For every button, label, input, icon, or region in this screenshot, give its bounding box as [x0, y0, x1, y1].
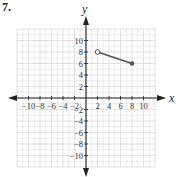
- y-tick-label: −2: [74, 105, 83, 115]
- x-tick-label: −4: [58, 101, 68, 111]
- x-tick-label: 8: [130, 101, 134, 111]
- x-tick-label: 10: [139, 101, 148, 111]
- y-tick-label: 2: [79, 82, 83, 92]
- x-tick-label: −6: [47, 101, 56, 111]
- y-tick-label: 6: [79, 59, 83, 69]
- y-tick-label: −4: [74, 116, 84, 126]
- arrow-right-icon: [157, 95, 166, 101]
- coordinate-plane: −10−8−6−4−2246810108642−2−4−6−8−10 x y: [0, 0, 184, 177]
- open-endpoint: [95, 50, 100, 55]
- closed-endpoint: [130, 61, 135, 66]
- x-axis-label: x: [168, 91, 175, 105]
- x-tick-label: 2: [95, 101, 99, 111]
- x-tick-label: 6: [118, 101, 122, 111]
- y-tick-label: −8: [74, 139, 83, 149]
- arrow-up-icon: [83, 16, 89, 25]
- arrow-down-icon: [83, 168, 89, 177]
- y-tick-label: 8: [79, 47, 83, 57]
- x-tick-label: −8: [35, 101, 44, 111]
- arrow-left-icon: [8, 95, 17, 101]
- y-tick-label: 10: [75, 36, 84, 46]
- y-tick-label: −10: [70, 151, 83, 161]
- y-axis-label: y: [81, 2, 88, 16]
- y-tick-label: −6: [74, 128, 83, 138]
- x-tick-label: −10: [22, 101, 35, 111]
